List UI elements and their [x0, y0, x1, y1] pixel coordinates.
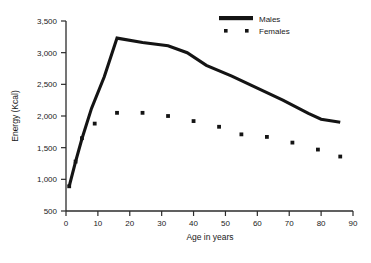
series-marker-females: [80, 136, 84, 140]
y-axis-title: Energy (Kcal): [10, 90, 20, 142]
legend-line-swatch-males: [219, 16, 253, 20]
series-marker-females: [291, 141, 295, 145]
series-marker-females: [316, 148, 320, 152]
x-axis: 0102030405060708090 Age in years: [64, 211, 358, 242]
y-tick-label: 1,500: [37, 144, 58, 153]
series-marker-females: [338, 155, 342, 159]
data-series: [67, 38, 342, 188]
x-tick-marks: [66, 211, 353, 216]
y-tick-marks: [61, 21, 66, 211]
legend-label-females: Females: [259, 27, 290, 36]
y-tick-label: 3,500: [37, 17, 58, 26]
y-tick-label: 1,000: [37, 175, 58, 184]
series-marker-females: [239, 132, 243, 136]
y-axis: 5001,0001,5002,0002,5003,0003,500 Energy…: [10, 17, 66, 216]
x-tick-label: 20: [125, 219, 134, 228]
x-tick-label: 30: [157, 219, 166, 228]
series-marker-females: [74, 160, 78, 164]
chart-legend: Males Females: [219, 15, 290, 36]
y-tick-label: 2,000: [37, 112, 58, 121]
x-tick-label: 70: [285, 219, 294, 228]
x-tick-label: 0: [64, 219, 69, 228]
legend-marker-females-1: [224, 29, 228, 33]
series-marker-females: [166, 114, 170, 118]
x-axis-title: Age in years: [186, 232, 233, 242]
x-tick-label: 50: [221, 219, 230, 228]
series-line-males: [69, 38, 340, 186]
x-tick-label: 40: [189, 219, 198, 228]
series-marker-females: [141, 111, 145, 115]
series-marker-females: [217, 125, 221, 129]
series-marker-females: [192, 119, 196, 123]
legend-label-males: Males: [259, 15, 280, 24]
x-tick-label: 10: [93, 219, 102, 228]
series-marker-females: [67, 184, 71, 188]
y-tick-label: 500: [44, 207, 58, 216]
series-marker-females: [265, 135, 269, 139]
y-tick-labels: 5001,0001,5002,0002,5003,0003,500: [37, 17, 58, 216]
series-marker-females: [93, 122, 97, 126]
y-tick-label: 3,000: [37, 49, 58, 58]
x-tick-label: 90: [349, 219, 358, 228]
y-tick-label: 2,500: [37, 80, 58, 89]
x-tick-label: 60: [253, 219, 262, 228]
legend-marker-females-2: [245, 29, 249, 33]
series-marker-females: [115, 111, 119, 115]
energy-vs-age-chart: 5001,0001,5002,0002,5003,0003,500 Energy…: [0, 0, 371, 263]
chart-figure: 5001,0001,5002,0002,5003,0003,500 Energy…: [0, 0, 371, 263]
x-tick-label: 80: [317, 219, 326, 228]
x-tick-labels: 0102030405060708090: [64, 219, 358, 228]
